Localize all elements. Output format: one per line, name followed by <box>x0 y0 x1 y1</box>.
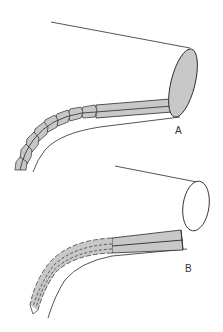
diagram-canvas: A B <box>0 0 223 332</box>
panel-a-rod <box>96 99 172 118</box>
panel-a-top-line <box>51 22 190 48</box>
panel-a-label: A <box>175 125 182 136</box>
panel-a-end-ellipse <box>163 46 203 120</box>
panel-a-segments <box>15 105 97 170</box>
panel-b-top-line <box>115 166 202 183</box>
panel-b-rod <box>112 230 183 253</box>
panel-a: A <box>15 22 203 172</box>
panel-b: B <box>30 166 212 318</box>
panel-b-end-ellipse <box>180 179 213 232</box>
panel-b-label: B <box>185 263 192 274</box>
